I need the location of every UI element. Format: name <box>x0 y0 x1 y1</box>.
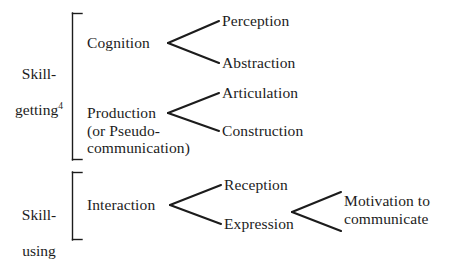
group-label-skill-using-line2: using <box>22 242 56 259</box>
group-label-skill-getting-line2: getting <box>15 101 58 118</box>
node-interaction: Interaction <box>87 196 155 214</box>
bracket-skill-using <box>73 172 83 240</box>
group-label-skill-getting-superscript: 4 <box>58 101 63 111</box>
group-label-skill-using-line1: Skill- <box>22 206 56 223</box>
bracket-skill-getting <box>73 13 83 160</box>
node-expression: Expression <box>224 215 294 233</box>
fork-expression <box>292 192 341 231</box>
node-production: Production (or Pseudo- communication) <box>87 104 190 157</box>
node-articulation: Articulation <box>222 84 298 102</box>
node-construction: Construction <box>222 122 303 140</box>
group-label-skill-using: Skill- using <box>10 188 68 260</box>
node-cognition: Cognition <box>87 34 150 52</box>
node-abstraction: Abstraction <box>222 54 295 72</box>
fork-cognition <box>168 21 219 63</box>
fork-interaction <box>170 185 221 224</box>
node-perception: Perception <box>222 12 289 30</box>
group-label-skill-getting: Skill- getting4 <box>10 47 68 119</box>
node-reception: Reception <box>224 176 288 194</box>
node-motivation-to-communicate: Motivation to communicate <box>344 192 430 228</box>
group-label-skill-getting-line1: Skill- <box>22 65 56 82</box>
